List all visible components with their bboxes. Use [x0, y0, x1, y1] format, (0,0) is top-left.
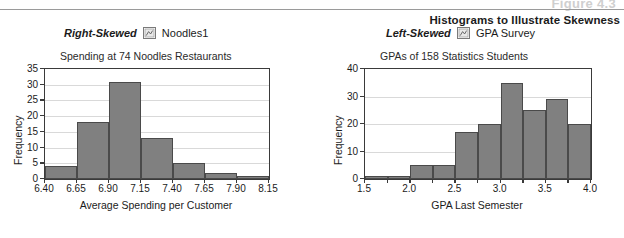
header-divider	[0, 9, 624, 10]
data-file-icon	[457, 27, 470, 39]
histogram-bar	[388, 176, 411, 179]
histogram-bar	[205, 173, 237, 179]
plot-area-left	[44, 68, 270, 180]
x-tick-label: 7.90	[220, 183, 252, 194]
y-tick-label: 10	[16, 142, 38, 153]
histogram-bar	[410, 165, 433, 179]
x-axis-label-left: Average Spending per Customer	[44, 199, 268, 211]
histogram-bar	[568, 124, 591, 179]
histogram-bar	[365, 176, 388, 179]
x-tick-label: 6.65	[60, 183, 92, 194]
bar-series-left	[45, 69, 269, 179]
x-tick-mark	[567, 179, 568, 183]
data-file-icon	[143, 27, 156, 39]
histogram-bar	[45, 166, 77, 179]
x-tick-mark	[477, 179, 478, 183]
histogram-bar	[546, 99, 569, 179]
y-tick-label: 30	[336, 91, 358, 102]
x-tick-label: 3.0	[484, 183, 516, 194]
x-tick-label: 2.5	[438, 183, 470, 194]
chart-title-right: GPAs of 158 Statistics Students	[380, 50, 528, 62]
x-tick-label: 7.15	[124, 183, 156, 194]
panel-label-left: Right-Skewed Noodles1	[64, 26, 208, 40]
histogram-bar	[173, 163, 205, 179]
y-tick-label: 30	[16, 79, 38, 90]
y-tick-label: 35	[16, 63, 38, 74]
skew-label: Left-Skewed	[386, 27, 451, 39]
figure-heading: Histograms to Illustrate Skewness	[429, 14, 620, 26]
histogram-bar	[478, 124, 501, 179]
y-tick-label: 5	[16, 157, 38, 168]
y-tick-label: 20	[16, 110, 38, 121]
y-tick-label: 25	[16, 94, 38, 105]
x-tick-label: 7.40	[156, 183, 188, 194]
histogram-bar	[77, 122, 109, 179]
histogram-bar	[433, 165, 456, 179]
x-tick-mark	[432, 179, 433, 183]
histogram-bar	[141, 138, 173, 179]
histogram-bar	[109, 82, 141, 179]
x-tick-label: 8.15	[252, 183, 284, 194]
x-tick-label: 6.40	[28, 183, 60, 194]
histogram-bar	[237, 176, 269, 179]
chart-title-left: Spending at 74 Noodles Restaurants	[60, 50, 232, 62]
x-tick-label: 4.0	[574, 183, 606, 194]
x-tick-label: 1.5	[348, 183, 380, 194]
plot-area-right	[364, 68, 592, 180]
histogram-bar	[455, 132, 478, 179]
panel-label-right: Left-Skewed GPA Survey	[386, 26, 535, 40]
x-tick-label: 7.65	[188, 183, 220, 194]
bar-series-right	[365, 69, 591, 179]
x-tick-mark	[387, 179, 388, 183]
x-tick-mark	[522, 179, 523, 183]
y-tick-label: 10	[336, 146, 358, 157]
y-tick-label: 40	[336, 63, 358, 74]
x-tick-label: 6.90	[92, 183, 124, 194]
skew-label: Right-Skewed	[64, 27, 137, 39]
dataset-name: GPA Survey	[476, 27, 535, 39]
histogram-bar	[501, 83, 524, 179]
y-tick-label: 20	[336, 118, 358, 129]
histogram-bar	[523, 110, 546, 179]
dataset-name: Noodles1	[162, 27, 208, 39]
x-axis-label-right: GPA Last Semester	[364, 199, 590, 211]
x-tick-label: 3.5	[529, 183, 561, 194]
x-tick-label: 2.0	[393, 183, 425, 194]
y-tick-label: 15	[16, 126, 38, 137]
